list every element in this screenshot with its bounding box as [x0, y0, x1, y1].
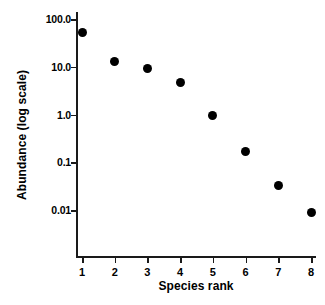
- x-tick-label: 5: [210, 266, 216, 278]
- y-tick-label: 0.1: [57, 156, 71, 168]
- y-tick-label: 1.0: [57, 109, 71, 121]
- x-tick-label: 7: [275, 266, 281, 278]
- x-tick-mark: [147, 258, 149, 263]
- x-tick-mark: [311, 258, 313, 263]
- rank-abundance-chart: 100.010.01.00.10.01 12345678 Species ran…: [0, 0, 325, 305]
- data-point: [176, 78, 185, 87]
- plot-area: 100.010.01.00.10.01 12345678: [76, 12, 316, 258]
- y-tick-mark: [71, 115, 76, 117]
- y-tick-label: 0.01: [51, 204, 71, 216]
- data-point: [143, 64, 152, 73]
- x-tick-mark: [180, 258, 182, 263]
- x-tick-mark: [115, 258, 117, 263]
- data-point: [78, 28, 87, 37]
- data-point: [208, 111, 217, 120]
- data-point: [241, 147, 250, 156]
- y-tick-label: 100.0: [46, 13, 71, 25]
- x-tick-mark: [278, 258, 280, 263]
- x-tick-mark: [213, 258, 215, 263]
- y-axis-line: [76, 12, 78, 258]
- data-point: [110, 57, 119, 66]
- x-axis-line: [76, 256, 316, 258]
- y-axis-title: Abundance (log scale): [14, 12, 30, 258]
- x-tick-label: 1: [79, 266, 85, 278]
- x-tick-label: 4: [177, 266, 183, 278]
- x-tick-label: 6: [243, 266, 249, 278]
- y-tick-mark: [71, 67, 76, 69]
- data-point: [274, 181, 283, 190]
- x-tick-mark: [82, 258, 84, 263]
- x-tick-label: 3: [144, 266, 150, 278]
- x-axis-title: Species rank: [76, 279, 316, 293]
- data-point: [307, 208, 316, 217]
- y-tick-mark: [71, 162, 76, 164]
- x-tick-label: 2: [112, 266, 118, 278]
- x-tick-mark: [246, 258, 248, 263]
- y-tick-mark: [71, 210, 76, 212]
- x-tick-label: 8: [308, 266, 314, 278]
- y-tick-mark: [71, 19, 76, 21]
- y-tick-label: 10.0: [51, 61, 71, 73]
